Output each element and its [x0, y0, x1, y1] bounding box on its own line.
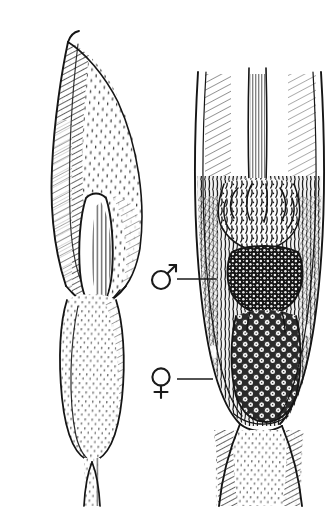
sterile-staminode-zone	[218, 178, 299, 250]
spadix-tip-in-opening	[79, 194, 113, 309]
peduncle-left	[82, 456, 102, 510]
staminate-flower-zone	[228, 246, 303, 314]
appendix-left-edge	[248, 68, 249, 184]
pistillate-flower-zone	[232, 310, 301, 422]
pistillate-ovary-texture	[232, 310, 301, 422]
botanical-illustration-figure: ♂ staminate (male) flower zone ♀ pistill…	[0, 0, 331, 532]
appendix-right-edge	[266, 68, 267, 184]
illustration-canvas	[0, 0, 331, 532]
spadix-appendix	[247, 68, 268, 184]
peduncle-right	[210, 424, 306, 510]
